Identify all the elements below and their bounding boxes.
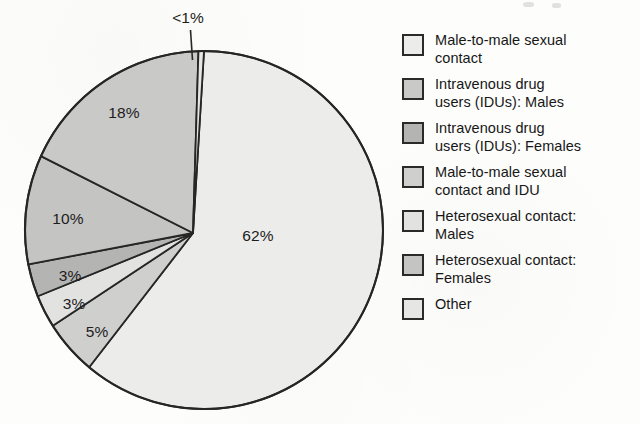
pie-slice-label: 3% — [59, 267, 82, 285]
scan-smudge — [523, 2, 534, 7]
pie-chart-page: 62%18%10%3%3%5% <1% Male-to-male sexual … — [0, 0, 640, 424]
pie-slice-label: 5% — [86, 323, 109, 341]
scan-smudge — [552, 3, 561, 8]
legend-swatch — [402, 298, 424, 320]
legend-item[interactable]: Intravenous drug users (IDUs): Females — [402, 120, 640, 155]
pie-slices-group — [25, 51, 383, 409]
legend-item-label: Male-to-male sexual contact and IDU — [435, 164, 567, 199]
legend-item-label: Intravenous drug users (IDUs): Males — [435, 76, 564, 111]
legend-swatch — [402, 78, 424, 100]
legend-item[interactable]: Heterosexual contact: Females — [402, 252, 640, 287]
legend-swatch — [402, 254, 424, 276]
legend-item[interactable]: Intravenous drug users (IDUs): Males — [402, 76, 640, 111]
legend-swatch — [402, 210, 424, 232]
pie-chart-area: 62%18%10%3%3%5% <1% — [0, 0, 400, 424]
pie-slice-label: 10% — [52, 210, 83, 228]
legend-swatch — [402, 34, 424, 56]
callout-label-less-than-1-percent: <1% — [172, 9, 203, 27]
legend-item[interactable]: Heterosexual contact: Males — [402, 208, 640, 243]
chart-legend: Male-to-male sexual contactIntravenous d… — [402, 32, 640, 329]
legend-item-label: Heterosexual contact: Males — [435, 208, 576, 243]
legend-item-label: Intravenous drug users (IDUs): Females — [435, 120, 581, 155]
pie-slice-label: 18% — [108, 104, 139, 122]
pie-slice-label: 3% — [63, 295, 86, 313]
legend-item[interactable]: Male-to-male sexual contact — [402, 32, 640, 67]
legend-item[interactable]: Male-to-male sexual contact and IDU — [402, 164, 640, 199]
legend-item-label: Heterosexual contact: Females — [435, 252, 576, 287]
legend-item-label: Other — [435, 296, 472, 314]
legend-swatch — [402, 122, 424, 144]
legend-swatch — [402, 166, 424, 188]
legend-item[interactable]: Other — [402, 296, 640, 320]
pie-slice-label: 62% — [242, 227, 273, 245]
legend-item-label: Male-to-male sexual contact — [435, 32, 567, 67]
